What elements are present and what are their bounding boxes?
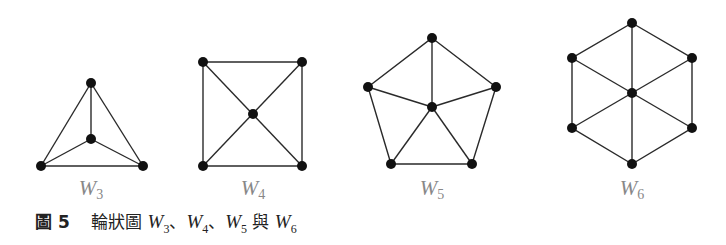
caption-w5: W5: [225, 211, 247, 232]
graph-label-w6: W6: [620, 176, 645, 203]
graph-label-w5: W5: [420, 176, 445, 203]
caption-prefix: 輪狀圖: [91, 212, 142, 232]
graph-label-w4: W4: [241, 176, 266, 203]
figure-caption: 圖 5 輪狀圖 W3、W4、W5 與 W6: [35, 208, 297, 237]
caption-separator: 、: [169, 212, 186, 232]
graph-w4: [198, 57, 307, 171]
graph-label-w3: W3: [79, 176, 104, 203]
figure-number: 圖 5: [35, 212, 70, 232]
caption-w6: W6: [275, 211, 297, 232]
caption-w4: W4: [186, 211, 208, 232]
graph-w6: [567, 18, 697, 169]
caption-separator: 、: [208, 212, 225, 232]
caption-w3: W3: [148, 211, 170, 232]
graph-w3: [36, 78, 148, 171]
graph-w5: [363, 33, 501, 169]
caption-separator: 與: [247, 212, 275, 232]
